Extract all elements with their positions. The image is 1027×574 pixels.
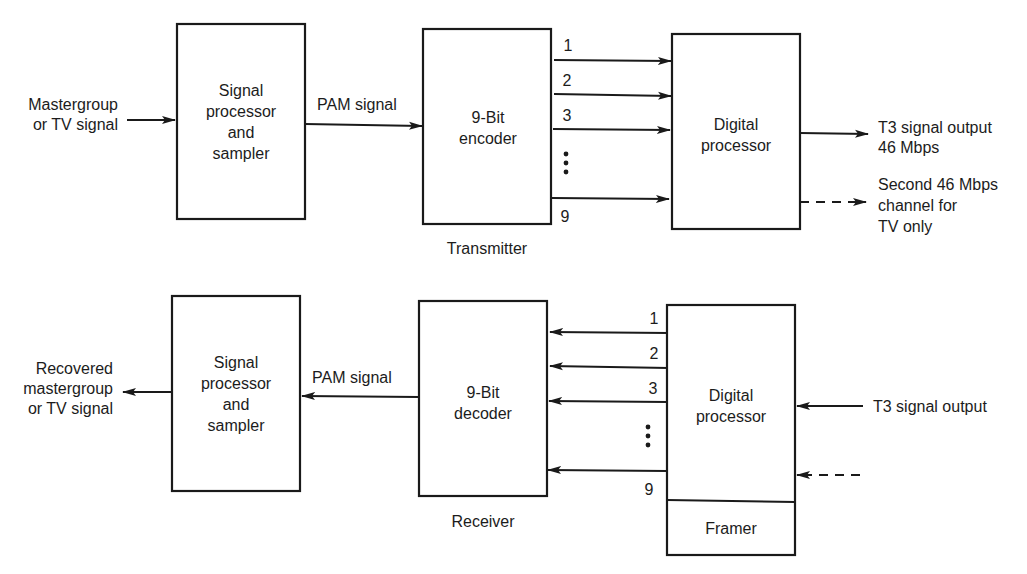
tx-sampler-line3: and [228,124,255,141]
rx-bit-arrow-2 [550,366,669,368]
tx-pam-label: PAM signal [317,96,397,113]
tx-output-label-line1: T3 signal output [878,119,992,136]
rx-bit-label-9: 9 [645,481,654,498]
tx-second-output-line1: Second 46 Mbps [878,176,998,193]
tx-bit-label-2: 2 [563,72,572,89]
tx-digital-processor-line1: Digital [714,116,758,133]
rx-sampler-line4: sampler [208,417,266,434]
tx-bit-label-1: 1 [564,37,573,54]
rx-pam-label: PAM signal [312,369,392,386]
rx-pam-arrow [302,396,419,397]
tx-output-label-line2: 46 Mbps [878,139,939,156]
rx-bit-arrow-1 [550,332,669,333]
tx-sampler-line2: processor [206,103,277,120]
tx-encoder-line2: encoder [459,130,517,147]
rx-input-label: T3 signal output [873,398,987,415]
rx-digital-processor-line2: processor [696,408,767,425]
tx-digital-processor-line2: processor [701,137,772,154]
tx-sampler-block [177,24,305,219]
tx-sampler-line1: Signal [219,82,263,99]
rx-sampler-block [172,296,300,491]
rx-bit-label-2: 2 [650,345,659,362]
tx-second-output-line2: channel for [878,197,958,214]
receiver-section: Recovered mastergroup or TV signal Signa… [23,296,987,555]
tx-encoder-line1: 9-Bit [472,109,505,126]
tx-sampler-line4: sampler [213,145,271,162]
tx-section-label: Transmitter [447,240,528,257]
rx-bit-label-3: 3 [649,380,658,397]
tx-pam-arrow [305,124,422,126]
tx-bit-arrow-9 [552,198,669,199]
rx-output-label-line1: Recovered [36,360,113,377]
tx-bit-arrow-2 [554,94,671,96]
rx-bit-arrow-3 [549,401,668,402]
rx-sampler-line3: and [223,396,250,413]
tx-t3-output-arrow [800,133,868,134]
rx-bit-arrow-9 [548,470,667,471]
rx-section-label: Receiver [451,513,515,530]
tx-encoder-block [423,29,551,224]
tx-bit-label-3: 3 [563,107,572,124]
rx-decoder-line1: 9-Bit [467,384,500,401]
tx-second-output-line3: TV only [878,218,932,235]
pcm-tv-system-diagram: Mastergroup or TV signal Signal processo… [0,0,1027,574]
rx-sampler-line1: Signal [214,354,258,371]
tx-ellipsis-dots [564,152,569,175]
rx-output-label-line2: mastergroup [23,380,113,397]
rx-output-label-line3: or TV signal [28,400,113,417]
rx-digital-processor-block [667,305,795,555]
rx-digital-processor-line1: Digital [709,387,753,404]
tx-bit-label-9: 9 [561,208,570,225]
rx-bit-label-1: 1 [650,310,659,327]
tx-input-label-line2: or TV signal [33,116,118,133]
tx-bit-arrow-1 [554,60,671,61]
tx-bit-arrow-3 [553,129,670,130]
transmitter-section: Mastergroup or TV signal Signal processo… [28,24,998,257]
tx-input-label-line1: Mastergroup [28,96,118,113]
rx-ellipsis-dots [646,425,651,448]
rx-sampler-line2: processor [201,375,272,392]
rx-decoder-line2: decoder [454,405,512,422]
rx-framer-label: Framer [705,520,757,537]
